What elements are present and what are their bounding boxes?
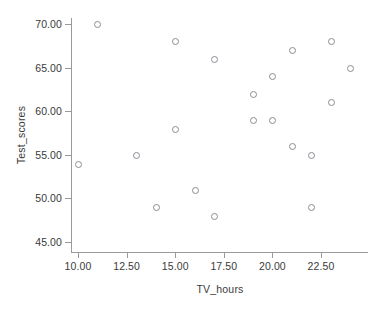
data-point (133, 152, 140, 159)
data-point (347, 65, 354, 72)
data-point (75, 161, 82, 168)
scatter-plot-chart: Test_scores TV_hours 45.0050.0055.0060.0… (0, 0, 380, 310)
y-axis-tick-label: 55.00 (2, 150, 62, 161)
data-point (211, 56, 218, 63)
y-axis-tick-label: 50.00 (2, 193, 62, 204)
x-axis-tick-label: 22.50 (291, 261, 351, 272)
data-point (269, 73, 276, 80)
data-point (289, 47, 296, 54)
y-axis-tick-label: 65.00 (2, 63, 62, 74)
x-axis-tick (127, 252, 128, 258)
x-axis-tick (78, 252, 79, 258)
data-point (250, 117, 257, 124)
y-axis-tick-label: 45.00 (2, 237, 62, 248)
data-point (308, 152, 315, 159)
data-point (172, 38, 179, 45)
x-axis-tick (272, 252, 273, 258)
y-axis-tick (65, 242, 71, 243)
data-point (328, 38, 335, 45)
y-axis-tick-label: 60.00 (2, 106, 62, 117)
x-axis-tick (175, 252, 176, 258)
y-axis-tick-label: 70.00 (2, 19, 62, 30)
data-point (328, 99, 335, 106)
data-point (211, 213, 218, 220)
y-axis-tick (65, 155, 71, 156)
data-point (250, 91, 257, 98)
data-point (192, 187, 199, 194)
data-point (153, 204, 160, 211)
data-point (289, 143, 296, 150)
data-point (172, 126, 179, 133)
x-axis-tick (224, 252, 225, 258)
y-axis-tick (65, 111, 71, 112)
data-point (269, 117, 276, 124)
y-axis-tick (65, 68, 71, 69)
data-point (308, 204, 315, 211)
data-point (94, 21, 101, 28)
y-axis-tick (65, 24, 71, 25)
y-axis-tick (65, 198, 71, 199)
plot-area: 45.0050.0055.0060.0065.0070.0010.0012.50… (0, 0, 380, 310)
x-axis-tick (321, 252, 322, 258)
